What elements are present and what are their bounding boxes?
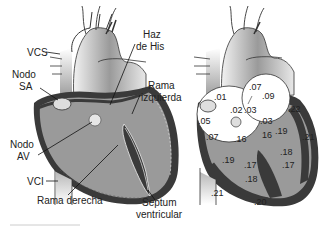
label-septum-2: ventricular — [136, 209, 183, 220]
value-18b: .18 — [245, 174, 258, 184]
value-16b: 16 — [262, 130, 272, 140]
value-03b: .03 — [260, 116, 273, 126]
value-17a: .17 — [244, 160, 257, 170]
value-21b: .21 — [211, 188, 224, 198]
label-haz-his-2: de His — [136, 41, 164, 52]
value-07b: .07 — [206, 132, 219, 142]
sa-node — [53, 98, 71, 110]
label-nodo-av-2: AV — [17, 151, 30, 162]
label-haz-his-1: Haz — [143, 29, 161, 40]
value-09: .09 — [262, 91, 275, 101]
label-rama-izq-1: Rama — [148, 80, 175, 91]
value-22: .22 — [288, 104, 301, 114]
value-18a: .18 — [280, 147, 293, 157]
label-vci: VCI — [27, 176, 44, 187]
label-rama-derecha: Rama derecha — [37, 195, 103, 206]
heart-conduction-figure: VCS Nodo SA Haz de His Rama izquierda No… — [0, 0, 324, 227]
right-heart-activation: .01 .05 .02 .03 .07 .09 .03 .22 .07 .16 … — [194, 6, 318, 207]
value-07a: .07 — [249, 82, 262, 92]
av-node — [89, 114, 101, 126]
value-03a: .03 — [244, 105, 257, 115]
value-01: .01 — [214, 92, 227, 102]
label-nodo-sa-1: Nodo — [12, 69, 36, 80]
value-19b: .19 — [222, 155, 235, 165]
value-21a: .21 — [302, 132, 315, 142]
label-nodo-av-1: Nodo — [10, 139, 34, 150]
value-20: .20 — [254, 197, 267, 207]
value-19a: .19 — [275, 126, 288, 136]
label-nodo-sa-2: SA — [19, 81, 33, 92]
label-rama-izq-2: izquierda — [141, 92, 182, 103]
value-16a: .16 — [234, 134, 247, 144]
value-05: .05 — [198, 116, 211, 126]
left-heart-anatomy: VCS Nodo SA Haz de His Rama izquierda No… — [10, 6, 183, 225]
value-17b: .17 — [282, 160, 295, 170]
value-02: .02 — [230, 105, 243, 115]
label-vcs: VCS — [27, 47, 48, 58]
label-septum-1: Septum — [142, 197, 176, 208]
